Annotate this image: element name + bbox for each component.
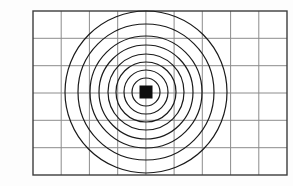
center-source-marker [140,86,153,99]
concentric-circles-diagram [0,0,293,186]
figure-root [0,0,293,186]
